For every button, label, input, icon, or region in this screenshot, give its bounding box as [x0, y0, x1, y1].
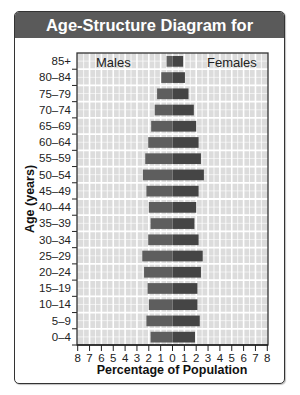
- bar-females-0: [173, 56, 184, 67]
- y-tick-label: 20–24: [39, 266, 72, 278]
- bar-males-12: [142, 251, 172, 262]
- y-tick-label: 0–4: [52, 331, 72, 343]
- bar-females-5: [173, 137, 199, 148]
- y-tick-label: 45–49: [39, 185, 71, 197]
- bar-females-9: [173, 202, 197, 213]
- bar-females-17: [173, 332, 196, 343]
- x-tick-label: 7: [86, 352, 92, 364]
- y-tick-label: 75–79: [39, 88, 71, 100]
- bar-males-4: [151, 121, 172, 132]
- y-tick-label: 30–34: [39, 234, 72, 246]
- bar-males-8: [146, 186, 172, 197]
- y-tick-label: 35–39: [39, 217, 71, 229]
- bar-females-4: [173, 121, 197, 132]
- bar-females-8: [173, 186, 199, 197]
- x-tick-label: 8: [74, 352, 80, 364]
- bar-females-10: [173, 218, 195, 229]
- bar-males-6: [145, 153, 172, 164]
- x-axis-title: Percentage of Population: [97, 363, 248, 377]
- y-tick-label: 85+: [51, 55, 71, 67]
- population-pyramid-chart: 85+80–8475–7970–7465–6960–6455–5950–5445…: [0, 0, 300, 395]
- bar-males-5: [148, 137, 172, 148]
- y-tick-label: 10–14: [39, 298, 72, 310]
- x-tick-label: 7: [252, 352, 258, 364]
- y-tick-label: 40–44: [39, 201, 72, 213]
- bar-males-10: [151, 218, 173, 229]
- y-tick-label: 50–54: [39, 169, 72, 181]
- y-tick-label: 70–74: [39, 104, 72, 116]
- bar-females-15: [173, 299, 198, 310]
- bar-females-1: [173, 72, 185, 83]
- bar-males-1: [161, 72, 172, 83]
- bar-males-14: [148, 283, 173, 294]
- bar-males-9: [149, 202, 173, 213]
- bar-males-15: [149, 299, 173, 310]
- bar-females-11: [173, 234, 199, 245]
- bar-females-7: [173, 170, 204, 181]
- y-tick-label: 5–9: [52, 315, 71, 327]
- y-tick-label: 80–84: [39, 71, 72, 83]
- y-tick-label: 55–59: [39, 152, 71, 164]
- bar-females-12: [173, 251, 203, 262]
- y-tick-label: 60–64: [39, 136, 72, 148]
- y-axis-title: Age (years): [23, 165, 37, 233]
- bar-females-14: [173, 283, 198, 294]
- bar-females-16: [173, 316, 200, 327]
- bar-males-2: [157, 88, 172, 99]
- bar-males-13: [144, 267, 172, 278]
- bar-males-3: [155, 105, 173, 116]
- bar-males-17: [151, 332, 173, 343]
- legend-females: Females: [207, 55, 257, 70]
- y-tick-label: 25–29: [39, 250, 71, 262]
- x-tick-label: 8: [264, 352, 270, 364]
- bar-females-6: [173, 153, 201, 164]
- legend-males: Males: [96, 55, 131, 70]
- y-tick-label: 15–19: [39, 282, 71, 294]
- bar-females-3: [173, 105, 194, 116]
- bar-males-0: [167, 56, 173, 67]
- bar-males-11: [148, 234, 172, 245]
- bar-females-2: [173, 88, 189, 99]
- bar-females-13: [173, 267, 201, 278]
- bar-males-16: [146, 316, 172, 327]
- y-tick-label: 65–69: [39, 120, 71, 132]
- bar-males-7: [143, 170, 173, 181]
